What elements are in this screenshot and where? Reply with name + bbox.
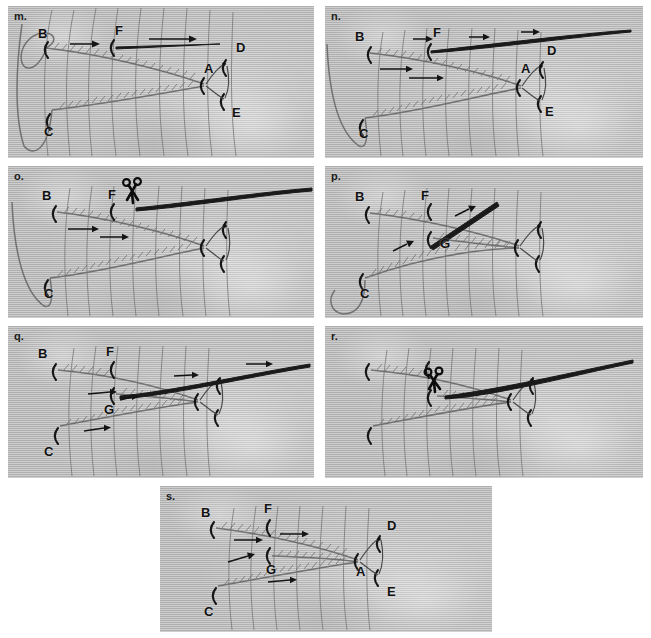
point-label-C: C <box>360 286 369 301</box>
panel-q: q. B F G C <box>8 326 314 478</box>
point-label-F: F <box>115 23 123 38</box>
panel-n: n. B F D A E C <box>325 6 643 158</box>
panel-m: m. B F D A E C <box>8 6 314 158</box>
figure-panel-grid: m. B F D A E C <box>0 0 651 638</box>
panel-p-artwork <box>325 166 643 318</box>
point-label-B: B <box>38 346 47 361</box>
panel-letter: n. <box>331 10 341 22</box>
arrow-right-icon <box>84 361 273 431</box>
panel-letter: q. <box>14 330 24 342</box>
point-label-C: C <box>44 286 53 301</box>
point-label-F: F <box>433 25 441 40</box>
point-label-D: D <box>387 518 396 533</box>
arrow-right-icon <box>68 226 129 240</box>
panel-letter: m. <box>14 10 27 22</box>
point-label-B: B <box>355 189 364 204</box>
point-label-B: B <box>42 188 51 203</box>
point-label-G: G <box>440 236 450 251</box>
point-label-E: E <box>232 105 241 120</box>
panel-letter: s. <box>166 490 175 502</box>
point-label-C: C <box>44 124 53 139</box>
point-label-E: E <box>545 104 554 119</box>
point-label-D: D <box>236 40 245 55</box>
point-label-A: A <box>521 61 530 76</box>
panel-letter: r. <box>331 330 338 342</box>
point-label-G: G <box>266 562 276 577</box>
point-label-F: F <box>106 344 114 359</box>
panel-n-artwork <box>325 6 643 158</box>
panel-m-artwork <box>8 6 314 158</box>
panel-r: r. <box>325 326 643 478</box>
panel-o: o. B F C <box>8 166 314 318</box>
point-label-F: F <box>108 187 116 202</box>
panel-p: p. B F G C <box>325 166 643 318</box>
point-label-B: B <box>201 505 210 520</box>
point-label-F: F <box>421 188 429 203</box>
point-label-C: C <box>359 126 368 141</box>
point-label-B: B <box>355 29 364 44</box>
point-label-E: E <box>387 584 396 599</box>
point-label-G: G <box>104 402 114 417</box>
panel-o-artwork <box>8 166 314 318</box>
panel-q-artwork <box>8 326 314 478</box>
point-label-A: A <box>356 564 365 579</box>
point-label-D: D <box>547 43 556 58</box>
panel-s: s. B F D G A E C <box>160 486 492 632</box>
point-label-A: A <box>204 61 213 76</box>
panel-letter: p. <box>331 170 341 182</box>
scissors-icon <box>123 178 141 203</box>
panel-letter: o. <box>14 170 24 182</box>
point-label-B: B <box>38 26 47 41</box>
point-label-F: F <box>264 501 272 516</box>
panel-r-artwork <box>325 326 643 478</box>
point-label-C: C <box>204 604 213 619</box>
point-label-C: C <box>44 444 53 459</box>
